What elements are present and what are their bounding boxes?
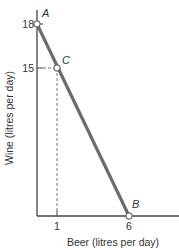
x-axis-title: Beer (litres per day): [67, 236, 159, 248]
x-tick-label-6: 6: [126, 220, 132, 232]
point-b-marker: [126, 213, 132, 219]
point-a-label: A: [41, 7, 49, 19]
budget-line: [37, 24, 129, 216]
point-a-marker: [34, 21, 40, 27]
budget-line-chart: A C B 18 15 1 6 Beer (litres per day) Wi…: [0, 0, 179, 250]
y-tick-label-15: 15: [22, 62, 34, 74]
point-c-marker: [54, 65, 60, 71]
y-tick-label-18: 18: [22, 18, 34, 30]
point-b-label: B: [132, 198, 139, 210]
y-axis-title: Wine (litres per day): [3, 71, 15, 165]
x-tick-label-1: 1: [54, 220, 60, 232]
point-c-label: C: [62, 54, 70, 66]
